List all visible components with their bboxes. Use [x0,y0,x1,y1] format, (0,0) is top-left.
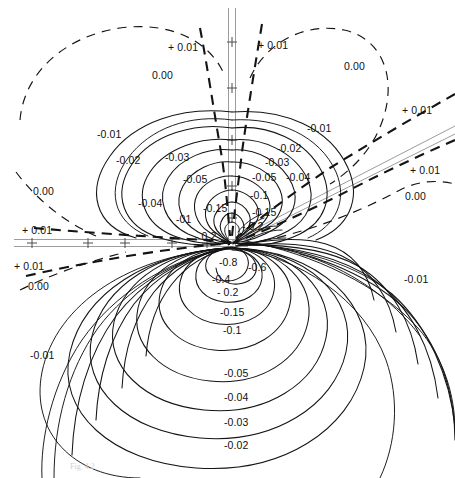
contour-label: -01 [176,214,191,225]
contour-label: 0.00 [405,191,426,202]
contour-negative-left-fan [42,248,228,478]
contour-label: + 0.01 [22,225,52,236]
contour-label: 0.00 [344,61,365,72]
contour-label: -0.05 [183,174,207,185]
contour-label: -0.1 [223,325,242,336]
contour-label: -0.15 [252,207,276,218]
contour-label: + 0.01 [14,261,44,272]
contour-figure: .c{fill:none;stroke:#141414;stroke-width… [0,0,455,478]
contour-label: -0.03 [265,157,289,168]
contour-negative-upper-left [122,127,232,245]
contour-label: -0.02 [116,155,140,166]
contour-label: -0.4 [212,274,231,285]
contour-label: -0.03 [165,152,189,163]
contour-label: -0.03 [224,417,248,428]
contour-label: 0.00 [33,186,54,197]
contour-label: -0.6 [248,262,267,273]
contour-label: -0.05 [224,368,248,379]
contour-label: -0.04 [286,172,310,183]
contour-label: -0.02 [224,440,248,451]
contour-label: + 0.01 [168,42,198,53]
contour-label: + 0.01 [410,165,440,176]
contour-label: -0.02 [277,143,301,154]
contour-label: + 0.01 [402,105,432,116]
contour-label: -0.05 [252,172,276,183]
contour-label: - 0.2 [195,231,217,242]
contour-label: -0.04 [138,198,162,209]
contour-label: -0.15 [220,307,244,318]
contour-label: 0.00 [152,70,173,81]
contour-label: -0.01 [404,274,428,285]
contour-label: - 0.2 [242,221,264,232]
contour-label: -0.8 [219,257,238,268]
contour-label: -0.1 [250,190,269,201]
contour-label: - 0.2 [217,287,239,298]
contour-label: -0.01 [97,129,121,140]
figure-caption: Fig. 4.2 [70,462,95,471]
contour-label: + 0.01 [258,40,288,51]
contour-label: 0.00 [28,281,49,292]
contour-label: -0.04 [224,392,248,403]
contour-plot-canvas: .c{fill:none;stroke:#141414;stroke-width… [0,0,455,478]
contour-negative-right-fan [236,240,455,440]
contour-label: -0.01 [30,350,54,361]
contour-label: -0.15 [203,203,227,214]
contour-label: -0.01 [307,123,331,134]
